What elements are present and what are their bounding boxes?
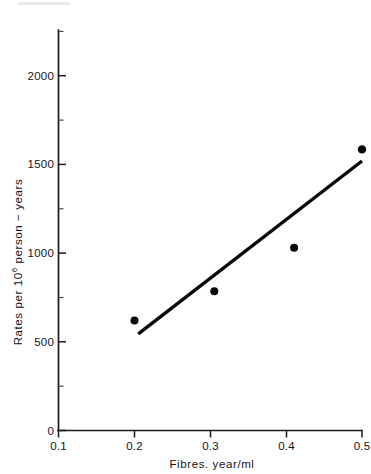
x-axis-title: Fibres. year/ml [169, 458, 254, 470]
y-tick-label-0: 0 [47, 425, 54, 437]
y-tick-label-2000: 2000 [28, 70, 54, 82]
svg-text:Rates per 106 person − years: Rates per 106 person − years [10, 179, 24, 346]
y-axis-title-suffix: person − years [12, 179, 24, 268]
y-axis-title-prefix: Rates per 10 [12, 272, 24, 345]
y-tick-label-500: 500 [34, 336, 54, 348]
x-tick-label-0.3: 0.3 [202, 440, 219, 452]
x-tick-label-0.2: 0.2 [126, 440, 143, 452]
x-tick-label-0.5: 0.5 [354, 440, 371, 452]
x-tick-label-0.1: 0.1 [50, 440, 67, 452]
y-tick-label-1500: 1500 [28, 158, 54, 170]
data-point-1 [131, 317, 139, 325]
y-axis-title: Rates per 106 person − years [10, 179, 24, 346]
y-tick-label-1000: 1000 [28, 247, 54, 259]
scatter-chart-figure: 0 500 1000 1500 2000 0.1 0.2 0.3 0.4 0.5… [0, 0, 371, 474]
data-point-4 [358, 145, 366, 153]
chart-background [0, 0, 371, 474]
data-point-2 [210, 287, 218, 295]
scan-artifact [18, 2, 70, 5]
data-point-3 [290, 244, 298, 252]
x-tick-label-0.4: 0.4 [278, 440, 295, 452]
